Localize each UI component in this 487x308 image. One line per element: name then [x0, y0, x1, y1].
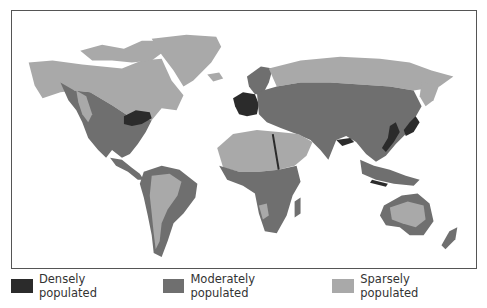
legend-label-dense: Densely populated — [39, 272, 147, 300]
legend-swatch-moderate — [163, 279, 185, 293]
legend-swatch-sparse — [332, 279, 354, 293]
region-sub-saharan-africa — [219, 166, 300, 233]
region-ganges-dense — [336, 138, 354, 146]
region-central-america — [110, 158, 144, 180]
map-legend: Densely populated Moderately populated S… — [11, 278, 487, 294]
legend-item-moderate: Moderately populated — [163, 272, 317, 300]
legend-item-dense: Densely populated — [11, 272, 147, 300]
legend-swatch-dense — [11, 279, 33, 293]
region-iceland — [207, 73, 223, 82]
region-arctic-islands — [80, 41, 167, 63]
legend-label-sparse: Sparsely populated — [360, 272, 471, 300]
legend-item-sparse: Sparsely populated — [332, 272, 471, 300]
world-map — [12, 11, 476, 268]
region-southeast-asia — [360, 160, 420, 186]
region-sahara-arabia — [217, 130, 312, 172]
region-madagascar — [295, 198, 301, 218]
region-new-zealand — [441, 227, 457, 249]
region-western-europe-dense — [233, 92, 259, 116]
region-kamchatka — [420, 82, 440, 106]
legend-label-moderate: Moderately populated — [190, 272, 316, 300]
world-map-frame — [11, 10, 477, 269]
